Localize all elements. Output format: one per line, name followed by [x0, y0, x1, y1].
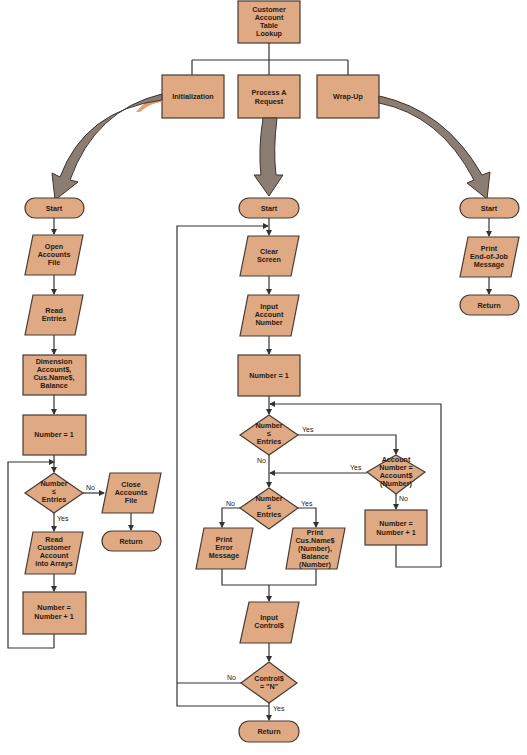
svg-text:Yes: Yes [350, 464, 362, 471]
hierarchy-connector [192, 43, 348, 75]
svg-text:Yes: Yes [301, 500, 313, 507]
expand-arrow-wrapup-icon [379, 96, 490, 199]
svg-text:(Number): (Number) [380, 479, 413, 488]
process-decision-3: Number ≤ Entries [240, 488, 298, 529]
module-wrap-up: Wrap-Up [317, 75, 379, 118]
svg-text:No: No [257, 457, 266, 464]
svg-text:No: No [227, 674, 236, 681]
wrap-print-end-of-job: Print End-of-Job Message [460, 237, 519, 277]
svg-text:Entries: Entries [42, 314, 66, 323]
svg-text:Number =: Number = [379, 519, 412, 528]
init-decision-number-le-entries: Number ≤ Entries [25, 473, 83, 513]
expand-arrow-initialization-icon [52, 94, 162, 200]
init-open-accounts-file: Open Accounts File [25, 235, 83, 275]
init-start: Start [25, 198, 84, 218]
root-node: Customer Account Table Lookup [238, 1, 300, 43]
svg-text:Start: Start [261, 204, 278, 213]
svg-text:Start: Start [46, 204, 63, 213]
init-read-entries: Read Entries [25, 295, 83, 335]
process-input-control: Input Control$ [240, 602, 299, 643]
svg-text:File: File [48, 258, 60, 267]
process-return: Return [239, 721, 299, 742]
svg-text:Request: Request [255, 97, 284, 106]
init-return: Return [102, 531, 161, 551]
svg-text:Message: Message [474, 260, 504, 269]
process-start: Start [239, 198, 299, 218]
wrap-return: Return [460, 295, 519, 315]
svg-text:Number = 1: Number = 1 [249, 371, 288, 380]
svg-text:Yes: Yes [57, 515, 69, 522]
svg-text:Return: Return [477, 301, 500, 310]
svg-text:Process A: Process A [252, 88, 287, 97]
process-clear-screen: Clear Screen [240, 236, 299, 276]
process-number-increment: Number = Number + 1 [365, 510, 427, 545]
module-initialization: Initialization [162, 75, 224, 118]
svg-text:Yes: Yes [273, 705, 285, 712]
svg-text:Number: Number [255, 318, 282, 327]
process-print-customer-balance: Print Cus.Name$ (Number), Balance (Numbe… [286, 528, 345, 569]
svg-text:Entries: Entries [257, 437, 281, 446]
wrap-start: Start [460, 198, 519, 218]
svg-text:Initialization: Initialization [172, 92, 214, 101]
svg-text:= "N": = "N" [260, 682, 278, 691]
process-decision-control-n: Control$ = "N" [241, 662, 297, 703]
svg-text:Number = 1: Number = 1 [34, 430, 73, 439]
svg-text:(Number): (Number) [299, 560, 332, 569]
init-dimension: Dimension Account$, Cus.Name$, Balance [23, 355, 86, 395]
svg-text:Number =: Number = [37, 603, 70, 612]
svg-text:Start: Start [481, 204, 498, 213]
svg-text:No: No [399, 495, 408, 502]
process-decision-2-account-match: Account Number = Account$ (Number) [367, 455, 425, 494]
init-read-customer-account: Read Customer Account into Arrays [25, 532, 83, 574]
svg-text:No: No [226, 500, 235, 507]
svg-text:Balance: Balance [40, 381, 68, 390]
svg-text:Screen: Screen [257, 255, 281, 264]
module-process-request: Process A Request [238, 75, 300, 118]
process-number-equals-1: Number = 1 [238, 355, 300, 396]
svg-text:into Arrays: into Arrays [35, 559, 73, 568]
svg-text:Return: Return [119, 537, 142, 546]
svg-text:File: File [125, 496, 137, 505]
svg-text:Number + 1: Number + 1 [376, 528, 415, 537]
process-decision-1: Number ≤ Entries [240, 415, 298, 455]
init-number-equals-1: Number = 1 [23, 415, 86, 455]
flowchart: Customer Account Table Lookup Initializa… [0, 0, 527, 755]
svg-text:Lookup: Lookup [256, 29, 283, 38]
svg-text:Message: Message [209, 551, 239, 560]
svg-text:Control$: Control$ [254, 621, 284, 630]
process-input-account-number: Input Account Number [240, 295, 299, 336]
svg-text:Wrap-Up: Wrap-Up [333, 92, 363, 101]
init-number-increment: Number = Number + 1 [23, 592, 86, 634]
process-print-error-message: Print Error Message [196, 528, 253, 569]
svg-text:Yes: Yes [302, 426, 314, 433]
svg-text:Return: Return [257, 727, 280, 736]
svg-text:No: No [86, 484, 95, 491]
svg-text:Number + 1: Number + 1 [34, 612, 73, 621]
init-close-accounts-file: Close Accounts File [102, 473, 161, 513]
expand-arrow-process-icon [254, 118, 283, 196]
svg-text:Entries: Entries [257, 510, 281, 519]
svg-text:Entries: Entries [42, 495, 66, 504]
